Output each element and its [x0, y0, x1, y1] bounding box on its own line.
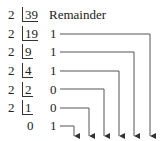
arrow-row-6	[60, 126, 74, 136]
arrow-row-1	[60, 34, 150, 136]
arrow-row-2	[60, 52, 134, 136]
remainder-arrows	[0, 0, 161, 141]
arrow-row-4	[60, 89, 104, 136]
